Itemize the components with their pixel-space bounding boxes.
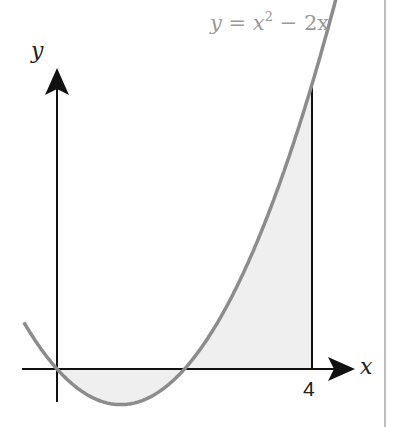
equation-label: y = x2 − 2x — [209, 9, 329, 35]
area-under-curve-diagram: y x 4 y = x2 − 2x — [0, 0, 393, 427]
shaded-region — [57, 84, 312, 404]
x-tick-label-4: 4 — [303, 377, 315, 400]
x-axis-label: x — [360, 354, 373, 379]
y-axis-label: y — [30, 38, 44, 63]
